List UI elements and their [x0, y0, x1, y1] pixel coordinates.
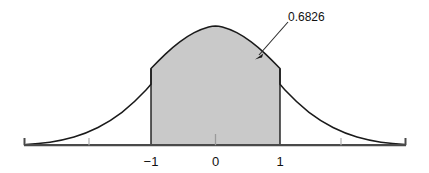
x-tick-label-minus-one: −1	[144, 154, 159, 169]
normal-distribution-chart: −1 0 1 0.6826	[0, 0, 429, 173]
x-tick-label-one: 1	[276, 154, 283, 169]
area-value-label: 0.6826	[288, 10, 325, 24]
x-tick-label-zero: 0	[212, 154, 219, 169]
